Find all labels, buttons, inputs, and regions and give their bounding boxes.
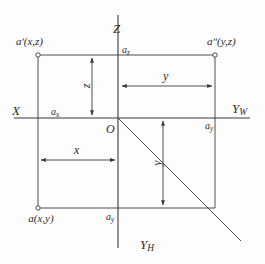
marker-point-a [36,206,40,210]
intercept-az-label: az [122,45,130,57]
dimension-x-label: x [74,144,79,156]
marker-point-a-prime [36,53,40,57]
dimension-y-upper-label: y [163,70,168,82]
yw-axis-subscript: W [239,107,247,117]
point-a-double-prime-label: aʺ(y,z) [207,36,236,47]
dimension-y-lower-label: y [151,157,163,169]
x-axis-label: X [12,104,20,117]
marker-point-a-double-prime [213,53,217,57]
bisector-line-45deg [118,118,241,241]
intercept-ax-subscript: x [56,111,59,119]
origin-label: O [106,123,115,135]
intercept-ax-label: ax [51,107,59,119]
intercept-az-subscript: z [127,49,130,57]
intercept-ay-bottom-subscript: y [111,216,114,224]
dimension-z-label: z [80,80,92,92]
intercept-ay-right-subscript: y [210,125,213,133]
yh-axis-label: YH [140,238,154,253]
projection-diagram: Z X YW YH O aʹ(x,z) aʺ(y,z) a(x,y) az ax… [0,0,265,264]
intercept-ay-bottom-label: ay [106,212,114,224]
intercept-ay-right-label: ay [205,121,213,133]
yw-axis-label: YW [232,102,247,117]
point-a-prime-label: aʹ(x,z) [16,36,43,47]
z-axis-label: Z [113,22,120,35]
point-a-label: a(x,y) [28,213,53,224]
yh-axis-subscript: H [147,243,154,253]
